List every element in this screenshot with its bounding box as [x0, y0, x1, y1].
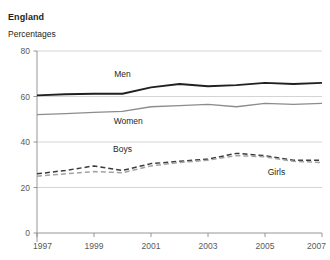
series-label-women: Women: [114, 116, 143, 126]
series-line-women: [37, 103, 322, 114]
chart-figure: England Percentages 02040608019971999200…: [0, 0, 330, 260]
x-tick-label-2003: 2003: [199, 241, 218, 251]
x-tick-label-2007: 2007: [307, 241, 326, 251]
y-tick-label-0: 0: [25, 228, 30, 238]
line-chart-plot: 020406080199719992001200320052007 MenWom…: [0, 0, 330, 260]
series-line-men: [37, 83, 322, 96]
x-tick-label-1997: 1997: [33, 241, 52, 251]
x-tick-label-1999: 1999: [85, 241, 104, 251]
tick-labels-group: 020406080199719992001200320052007: [21, 46, 327, 251]
y-tick-label-80: 80: [21, 46, 31, 56]
series-label-boys: Boys: [113, 144, 132, 154]
series-label-girls: Girls: [268, 167, 285, 177]
y-tick-label-60: 60: [21, 92, 31, 102]
y-tick-label-20: 20: [21, 183, 31, 193]
x-tick-label-2001: 2001: [142, 241, 161, 251]
x-tick-label-2005: 2005: [256, 241, 275, 251]
axes-group: [34, 51, 323, 242]
series-label-men: Men: [114, 69, 131, 79]
y-tick-label-40: 40: [21, 137, 31, 147]
